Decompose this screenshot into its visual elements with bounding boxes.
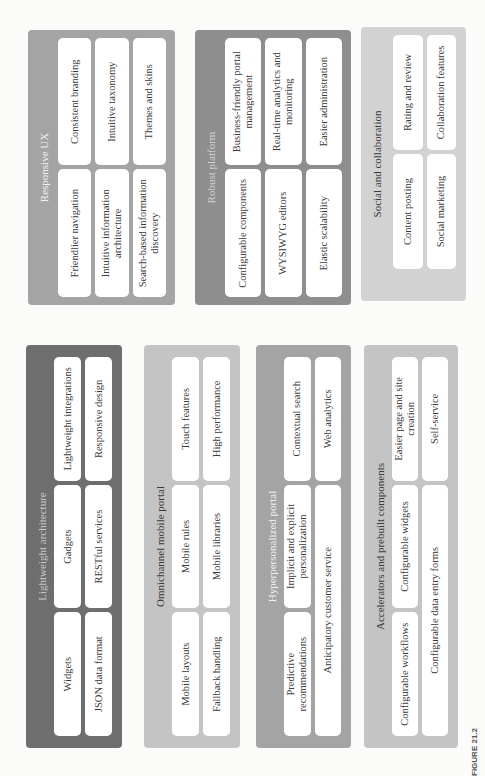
feature-contextual-search: Contextual search bbox=[284, 357, 311, 481]
panel-title: Lightweight architecture bbox=[32, 345, 52, 748]
panel-omnichannel-mobile-portal: Omnichannel mobile portal Mobile layouts… bbox=[144, 345, 240, 748]
feature-themes-and-skins: Themes and skins bbox=[133, 38, 166, 166]
figure-caption: FIGURE 21.2 bbox=[470, 728, 479, 776]
panel-title: Social and collaboration bbox=[367, 27, 387, 301]
feature-mobile-layouts: Mobile layouts bbox=[172, 612, 199, 736]
panel-responsive-ux: Responsive UX Friendlier navigation Cons… bbox=[28, 30, 175, 305]
feature-restful-services: RESTful services bbox=[85, 485, 112, 609]
feature-high-performance: High performance bbox=[203, 357, 230, 481]
feature-anticipatory-customer-service: Anticipatory customer service bbox=[315, 485, 342, 736]
feature-configurable-widgets: Configurable widgets bbox=[392, 485, 418, 609]
panel-accelerators-prebuilt: Accelerators and prebuilt components Con… bbox=[364, 345, 458, 748]
feature-responsive-design: Responsive design bbox=[85, 357, 112, 481]
feature-intuitive-taxonomy: Intuitive taxonomy bbox=[95, 38, 128, 166]
panel-lightweight-architecture: Lightweight architecture Widgets Gadgets… bbox=[26, 345, 122, 748]
panel-robust-platform: Robust platform Configurable components … bbox=[195, 30, 351, 305]
feature-social-marketing: Social marketing bbox=[427, 154, 457, 269]
feature-gadgets: Gadgets bbox=[54, 485, 81, 609]
feature-lightweight-integrations: Lightweight integrations bbox=[54, 357, 81, 481]
feature-touch-features: Touch features bbox=[172, 357, 199, 481]
panel-title: Hyperpersonalized portal bbox=[262, 345, 282, 748]
feature-easier-page-site-creation: Easier page and site creation bbox=[392, 357, 418, 481]
feature-search-based-discovery: Search-based information discovery bbox=[133, 170, 166, 298]
feature-mobile-libraries: Mobile libraries bbox=[203, 485, 230, 609]
panel-title: Robust platform bbox=[201, 30, 221, 305]
feature-elastic-scalability: Elastic scalability bbox=[306, 170, 342, 298]
feature-configurable-workflows: Configurable workflows bbox=[392, 612, 418, 736]
feature-easier-administration: Easier administration bbox=[306, 38, 342, 166]
panel-title: Responsive UX bbox=[34, 30, 54, 305]
feature-wysiwyg-editors: WYSIWYG editors bbox=[265, 170, 301, 298]
feature-content-posting: Content posting bbox=[393, 154, 423, 269]
feature-self-service: Self-service bbox=[422, 357, 448, 481]
feature-implicit-explicit-personalization: Implicit and explicit personalization bbox=[284, 485, 311, 609]
feature-rating-and-review: Rating and review bbox=[393, 35, 423, 150]
feature-friendlier-navigation: Friendlier navigation bbox=[58, 170, 91, 298]
panel-title: Omnichannel mobile portal bbox=[150, 345, 170, 748]
feature-business-friendly-management: Business-friendly portal management bbox=[225, 38, 261, 166]
feature-json-data-format: JSON data format bbox=[85, 612, 112, 736]
feature-collaboration-features: Collaboration features bbox=[427, 35, 457, 150]
feature-web-analytics: Web analytics bbox=[315, 357, 342, 481]
panel-title: Accelerators and prebuilt components bbox=[370, 345, 390, 748]
feature-intuitive-information-architecture: Intuitive information architecture bbox=[95, 170, 128, 298]
panel-hyperpersonalized-portal: Hyperpersonalized portal Predictive reco… bbox=[256, 345, 351, 748]
feature-consistent-branding: Consistent branding bbox=[58, 38, 91, 166]
feature-widgets: Widgets bbox=[54, 612, 81, 736]
feature-realtime-analytics: Real-time analytics and monitoring bbox=[265, 38, 301, 166]
feature-configurable-components: Configurable components bbox=[225, 170, 261, 298]
feature-mobile-rules: Mobile rules bbox=[172, 485, 199, 609]
feature-predictive-recommendations: Predictive recommendations bbox=[284, 612, 311, 736]
feature-configurable-data-entry-forms: Configurable data entry forms bbox=[422, 485, 448, 736]
feature-fallback-handling: Fallback handling bbox=[203, 612, 230, 736]
panel-social-collaboration: Social and collaboration Content posting… bbox=[361, 27, 466, 301]
